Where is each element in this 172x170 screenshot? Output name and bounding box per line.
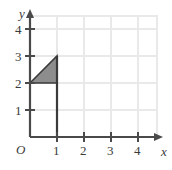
x-tick-label-3: 3 (107, 144, 114, 157)
y-tick-label-2: 2 (15, 77, 22, 90)
x-axis-arrowhead (154, 133, 163, 141)
y-axis-label: y (19, 7, 25, 20)
x-axis-label: x (161, 145, 167, 158)
origin-label: O (16, 143, 25, 156)
x-tick-label-1: 1 (53, 144, 60, 157)
y-tick-label-3: 3 (15, 50, 22, 63)
y-tick-label-4: 4 (15, 23, 22, 36)
y-tick-label-1: 1 (15, 104, 22, 117)
x-tick-label-2: 2 (80, 144, 87, 157)
y-axis-arrowhead (26, 9, 34, 18)
tick-marks (25, 29, 138, 142)
shaded-triangle (30, 56, 57, 83)
x-tick-label-4: 4 (134, 144, 141, 157)
coordinate-plane-figure: 1 2 3 4 1 2 3 4 O x y (0, 0, 172, 170)
